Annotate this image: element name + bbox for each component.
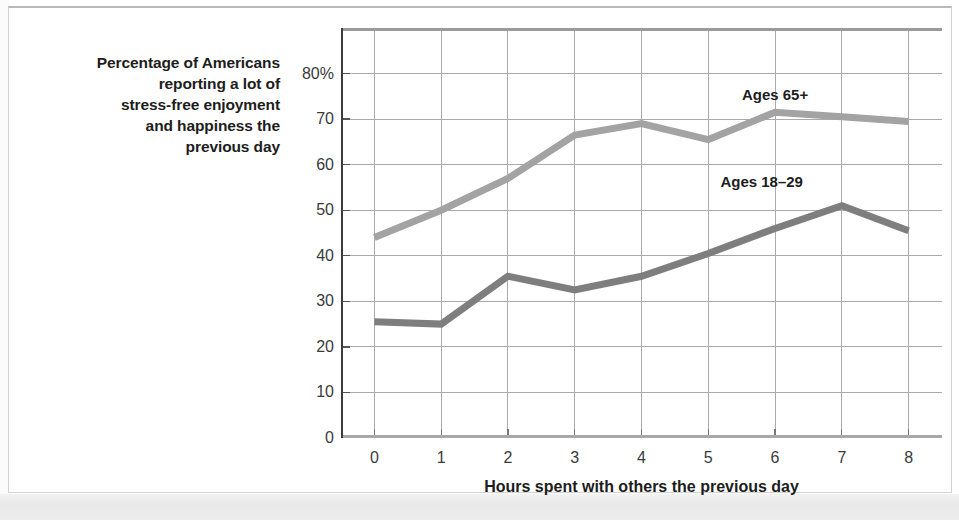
y-axis-tick-label: 70: [288, 110, 334, 128]
y-axis-tick-label: 0: [288, 429, 334, 447]
y-axis-tick-label: 60: [288, 156, 334, 174]
page-edge-band-left: [0, 0, 9, 494]
x-axis-caption: Hours spent with others the previous day: [341, 478, 942, 496]
y-axis-caption: Percentage of Americans reporting a lot …: [18, 52, 280, 157]
y-axis-caption-line-2: reporting a lot of: [18, 73, 280, 94]
x-axis-tick-label: 1: [426, 449, 456, 467]
y-axis-tick-label: 40: [288, 247, 334, 265]
page-edge-band-bottom: [0, 494, 959, 520]
x-axis-tick-label: 2: [493, 449, 523, 467]
x-axis-tick-labels: 012345678: [0, 449, 959, 471]
x-axis-tick-label: 8: [894, 449, 924, 467]
y-axis-tick-label: 50: [288, 201, 334, 219]
plot-svg: [341, 28, 942, 438]
y-axis-tick-labels: 01020304050607080%: [288, 0, 334, 520]
y-axis-tick-label: 10: [288, 383, 334, 401]
chart-figure: Percentage of Americans reporting a lot …: [0, 0, 959, 520]
plot-area: [341, 28, 942, 438]
x-axis-tick-label: 3: [560, 449, 590, 467]
y-axis-caption-line-4: and happiness the: [18, 115, 280, 136]
y-axis-tick-label: 20: [288, 338, 334, 356]
y-axis-caption-line-3: stress-free enjoyment: [18, 94, 280, 115]
series-label-2: Ages 18–29: [720, 172, 803, 189]
series-label-1: Ages 65+: [742, 86, 808, 103]
y-axis-tick-label: 80%: [288, 65, 334, 83]
y-axis-caption-line-5: previous day: [18, 136, 280, 157]
x-axis-tick-label: 6: [760, 449, 790, 467]
x-axis-tick-label: 4: [627, 449, 657, 467]
x-axis-tick-label: 0: [359, 449, 389, 467]
x-axis-tick-label: 5: [693, 449, 723, 467]
y-axis-caption-line-1: Percentage of Americans: [18, 52, 280, 73]
x-axis-tick-label: 7: [827, 449, 857, 467]
y-axis-tick-label: 30: [288, 292, 334, 310]
